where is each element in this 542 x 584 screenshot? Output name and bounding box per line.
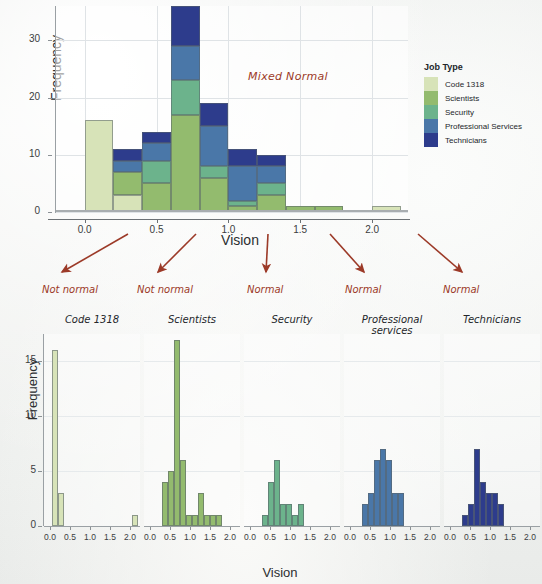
stacked-bar-segment <box>200 166 229 177</box>
facet-x-tick-label: 0.5 <box>60 532 80 542</box>
bottom-chart-x-axis-label: Vision <box>225 565 335 580</box>
facet-plot-area <box>144 334 240 526</box>
histogram-bar <box>398 493 404 526</box>
gridline-horizontal <box>56 98 408 99</box>
y-tick-mark <box>48 155 52 156</box>
facet-x-tick-label: 2.0 <box>420 532 440 542</box>
facet-x-tick-label: 2.0 <box>320 532 340 542</box>
legend-items: Code 1318ScientistsSecurityProfessional … <box>424 77 542 147</box>
bottom-y-tick-label: 5 <box>8 464 36 475</box>
facet-plot-area <box>44 334 140 526</box>
gridline-vertical <box>300 6 301 212</box>
annotation-arrow <box>266 234 268 272</box>
histogram-bar <box>132 515 138 526</box>
gridline-horizontal <box>344 416 440 417</box>
gridline-vertical <box>372 6 373 212</box>
gridline-horizontal <box>244 416 340 417</box>
gridline-horizontal <box>144 416 240 417</box>
facet-x-tick-mark <box>310 527 311 530</box>
facet-x-tick-mark <box>90 527 91 530</box>
facet-x-tick-label: 1.5 <box>300 532 320 542</box>
gridline-horizontal <box>56 212 408 213</box>
gridline-horizontal <box>144 361 240 362</box>
facet-x-tick-label: 1.5 <box>200 532 220 542</box>
stacked-bar-segment <box>142 161 171 184</box>
legend-item: Scientists <box>424 91 542 105</box>
facet-x-tick-mark <box>150 527 151 530</box>
facet-x-tick-mark <box>470 527 471 530</box>
gridline-horizontal <box>244 471 340 472</box>
facet-x-tick-label: 1.0 <box>180 532 200 542</box>
gridline-horizontal <box>244 361 340 362</box>
facet-x-tick-mark <box>170 527 171 530</box>
legend-item-label: Security <box>445 108 474 117</box>
facet-professional-services: Professional services0.00.51.01.52.0 <box>344 334 440 526</box>
facet-x-tick-label: 1.5 <box>400 532 420 542</box>
stacked-bar-segment <box>142 143 171 160</box>
gridline-horizontal <box>344 361 440 362</box>
histogram-bar <box>298 504 304 526</box>
stacked-bar-segment <box>85 120 114 212</box>
facet-x-tick-label: 2.0 <box>520 532 540 542</box>
y-tick-label: 10 <box>14 148 40 159</box>
legend-item: Security <box>424 105 542 119</box>
legend-item-label: Scientists <box>445 94 479 103</box>
histogram-bar <box>216 515 222 526</box>
stacked-bar-segment <box>113 172 142 195</box>
gridline-horizontal <box>444 416 540 417</box>
facet-security: Security0.00.51.01.52.0 <box>244 334 340 526</box>
bottom-y-tick-label: 0 <box>8 519 36 530</box>
facet-x-tick-label: 2.0 <box>120 532 140 542</box>
arrow-lines <box>62 234 462 272</box>
stacked-bar-segment <box>257 183 286 194</box>
stacked-histogram-panel: Frequency 0102030 0.00.51.01.52.0 Vision… <box>0 0 542 246</box>
stacked-bar-segment <box>257 155 286 166</box>
bottom-y-tick-mark <box>38 361 42 362</box>
facet-x-tick-label: 1.0 <box>480 532 500 542</box>
facet-x-tick-mark <box>490 527 491 530</box>
arrow-svg <box>0 228 542 288</box>
facet-x-tick-label: 0.5 <box>160 532 180 542</box>
facet-x-axis <box>444 526 540 527</box>
top-chart-plot-area <box>56 6 408 212</box>
normality-label: Normal <box>345 284 381 295</box>
histogram-bar <box>498 504 504 526</box>
facet-x-tick-label: 1.0 <box>80 532 100 542</box>
mixed-normal-annotation: Mixed Normal <box>248 70 328 83</box>
stacked-bar-segment <box>142 132 171 143</box>
legend-item-label: Professional Services <box>445 122 522 131</box>
x-tick-mark <box>372 219 373 223</box>
x-tick-mark <box>157 219 158 223</box>
stacked-bar-segment <box>200 103 229 126</box>
facet-x-tick-mark <box>430 527 431 530</box>
y-tick-label: 0 <box>14 205 40 216</box>
facet-x-tick-mark <box>70 527 71 530</box>
gridline-horizontal <box>444 471 540 472</box>
bottom-y-tick-mark <box>38 471 42 472</box>
stacked-bar <box>257 155 286 212</box>
job-type-legend: Job Type Code 1318ScientistsSecurityProf… <box>424 62 542 147</box>
facet-x-tick-label: 1.0 <box>280 532 300 542</box>
facet-x-tick-mark <box>530 527 531 530</box>
facet-x-tick-mark <box>450 527 451 530</box>
gridline-horizontal <box>444 361 540 362</box>
facet-x-tick-label: 0.0 <box>40 532 60 542</box>
gridline-horizontal <box>44 361 140 362</box>
facet-x-tick-mark <box>290 527 291 530</box>
normality-label: Normal <box>247 284 283 295</box>
facet-x-tick-mark <box>390 527 391 530</box>
normality-label: Not normal <box>137 284 193 295</box>
stacked-bar-segment <box>142 183 171 212</box>
gridline-horizontal <box>56 40 408 41</box>
stacked-bar-segment <box>228 201 257 207</box>
facet-x-tick-label: 1.5 <box>500 532 520 542</box>
facet-x-tick-mark <box>510 527 511 530</box>
y-tick-mark <box>48 40 52 41</box>
stacked-bar-segment <box>257 166 286 183</box>
legend-swatch <box>424 133 438 147</box>
annotation-arrows-layer: Not normalNot normalNormalNormalNormal <box>0 228 542 312</box>
stacked-bar <box>142 132 171 212</box>
bottom-y-tick-label: 15 <box>8 354 36 365</box>
stacked-bar-segment <box>200 126 229 166</box>
gridline-horizontal <box>44 416 140 417</box>
